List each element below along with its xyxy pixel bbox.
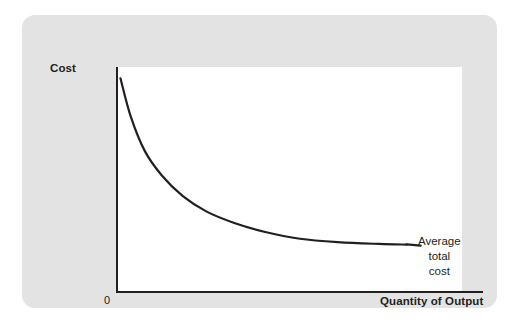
y-axis-title: Cost [50,62,76,76]
y-axis-line [116,67,118,293]
x-axis-line [116,291,483,293]
curve-annotation-line-3: cost [418,264,461,279]
curve-annotation-line-1: Average [418,234,461,249]
x-axis-title: Quantity of Output [380,295,483,309]
curve-annotation-line-2: total [418,249,461,264]
curve-annotation: Average total cost [418,234,461,280]
plot-canvas [117,67,462,293]
origin-label: 0 [104,294,110,307]
figure-root: Cost Quantity of Output 0 Average total … [0,0,513,324]
figure-panel: Cost Quantity of Output 0 Average total … [22,15,497,308]
